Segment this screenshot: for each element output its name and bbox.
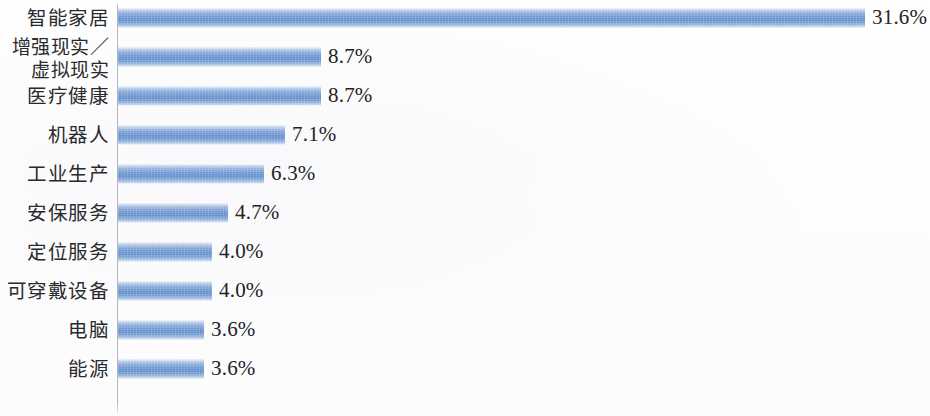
bar-row: 机器人7.1% bbox=[0, 117, 930, 156]
bar-chart: 智能家居31.6%增强现实／ 虚拟现实8.7%医疗健康8.7%机器人7.1%工业… bbox=[0, 0, 930, 416]
bar bbox=[118, 319, 204, 340]
category-label: 能源 bbox=[0, 359, 118, 380]
bar-row: 安保服务4.7% bbox=[0, 195, 930, 234]
category-label: 工业生产 bbox=[0, 164, 118, 185]
bar-value-label: 4.0% bbox=[219, 240, 264, 262]
bar bbox=[118, 358, 204, 379]
bar-value-label: 3.6% bbox=[211, 318, 256, 340]
bar-track bbox=[118, 7, 865, 28]
bar bbox=[118, 241, 212, 262]
bar-value-label: 4.7% bbox=[235, 201, 280, 223]
category-label: 定位服务 bbox=[0, 242, 118, 263]
category-label: 可穿戴设备 bbox=[0, 281, 118, 302]
bar-track bbox=[118, 319, 204, 340]
bar-track bbox=[118, 85, 321, 106]
bar bbox=[118, 280, 212, 301]
bar-value-label: 6.3% bbox=[271, 162, 316, 184]
bar-track bbox=[118, 163, 264, 184]
bar-value-label: 8.7% bbox=[328, 84, 373, 106]
bar-value-label: 4.0% bbox=[219, 279, 264, 301]
category-label: 电脑 bbox=[0, 320, 118, 341]
bar bbox=[118, 85, 321, 106]
category-label: 医疗健康 bbox=[0, 86, 118, 107]
bar bbox=[118, 163, 264, 184]
bar bbox=[118, 202, 228, 223]
bar-row: 电脑3.6% bbox=[0, 312, 930, 351]
bar-row: 可穿戴设备4.0% bbox=[0, 273, 930, 312]
bar-row: 工业生产6.3% bbox=[0, 156, 930, 195]
bar-row: 智能家居31.6% bbox=[0, 0, 930, 39]
category-label: 机器人 bbox=[0, 125, 118, 146]
bar-track bbox=[118, 358, 204, 379]
bar-row: 增强现实／ 虚拟现实8.7% bbox=[0, 39, 930, 78]
category-label: 安保服务 bbox=[0, 203, 118, 224]
bar bbox=[118, 124, 285, 145]
bar bbox=[118, 7, 865, 28]
bar-value-label: 8.7% bbox=[328, 45, 373, 67]
bar-value-label: 7.1% bbox=[292, 123, 337, 145]
bar-track bbox=[118, 124, 285, 145]
category-label: 增强现实／ 虚拟现实 bbox=[0, 36, 118, 82]
bar bbox=[118, 46, 321, 67]
bar-value-label: 3.6% bbox=[211, 357, 256, 379]
bar-track bbox=[118, 46, 321, 67]
bar-track bbox=[118, 202, 228, 223]
bar-row: 定位服务4.0% bbox=[0, 234, 930, 273]
category-label: 智能家居 bbox=[0, 8, 118, 29]
bar-row: 能源3.6% bbox=[0, 351, 930, 390]
bar-value-label: 31.6% bbox=[872, 6, 927, 28]
bar-track bbox=[118, 280, 212, 301]
bar-track bbox=[118, 241, 212, 262]
bar-row: 医疗健康8.7% bbox=[0, 78, 930, 117]
